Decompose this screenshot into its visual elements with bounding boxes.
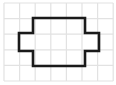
figure-svg (0, 0, 116, 85)
figure-canvas (0, 0, 116, 85)
